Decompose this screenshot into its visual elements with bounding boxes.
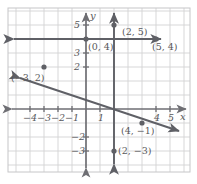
x-tick-label-4: 4	[154, 113, 160, 123]
x-tick-label-neg3: −3	[37, 113, 51, 123]
plot-panel	[8, 8, 190, 172]
x-tick-label-neg1: −1	[65, 113, 79, 123]
coordinate-plane-svg	[0, 0, 197, 184]
x-axis-label: x	[180, 112, 186, 122]
y-axis-label: y	[90, 11, 96, 21]
point-label-0-4: (0, 4)	[88, 42, 114, 52]
point-label-2-neg3: (2, −3)	[118, 146, 152, 156]
point-neg3-2	[41, 64, 46, 69]
point-label-neg3-2: (−3, 2)	[11, 73, 45, 83]
point-label-5-4: (5, 4)	[152, 42, 178, 52]
point-label-2-5: (2, 5)	[122, 27, 148, 37]
y-tick-label-3: 3	[74, 48, 80, 58]
x-tick-label-neg4: −4	[23, 113, 37, 123]
x-tick-label-5: 5	[168, 113, 174, 123]
coordinate-plane-figure: −4 −3 −2 −1 1 4 5 5 3 2 −2 −3 y x (0, 4)…	[0, 0, 197, 184]
point-2-5	[111, 22, 116, 27]
x-tick-label-neg2: −2	[51, 113, 65, 123]
point-2-neg3	[111, 148, 116, 153]
y-tick-label-2: 2	[74, 62, 80, 72]
y-tick-label-neg3: −3	[71, 146, 85, 156]
y-tick-label-neg2: −2	[71, 132, 85, 142]
x-tick-label-1: 1	[98, 113, 104, 123]
point-label-4-neg1: (4, −1)	[121, 126, 155, 136]
y-tick-label-5: 5	[74, 20, 80, 30]
